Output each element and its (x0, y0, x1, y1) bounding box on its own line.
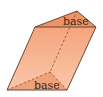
prism-diagram: base base (0, 0, 103, 97)
prism-svg: base base (0, 0, 103, 97)
top-base-label: base (63, 15, 89, 28)
bottom-base-label: base (34, 79, 60, 92)
